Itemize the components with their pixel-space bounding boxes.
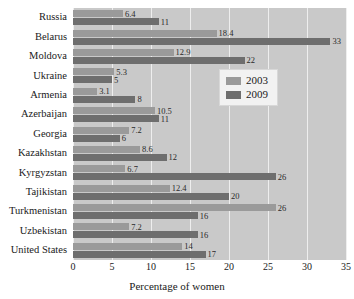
- x-tick-label: 0: [71, 262, 76, 272]
- x-tick-label: 25: [263, 262, 273, 272]
- bar-value-label: 16: [198, 231, 209, 240]
- bar-value-label: 11: [159, 17, 169, 26]
- bar-2009: [73, 154, 167, 161]
- x-tick-label: 35: [341, 262, 351, 272]
- bar-row: 7.2: [73, 127, 346, 134]
- bar-2003: [73, 68, 114, 75]
- bar-value-label: 26: [276, 203, 287, 212]
- gridline: [346, 8, 347, 260]
- category-axis: RussiaBelarusMoldovaUkraineArmeniaAzerba…: [0, 8, 70, 260]
- bar-row: 10.5: [73, 107, 346, 114]
- bar-row: 26: [73, 204, 346, 211]
- category-label: Uzbekistan: [0, 221, 70, 240]
- bar-value-label: 14: [182, 242, 193, 251]
- x-tick-label: 30: [302, 262, 312, 272]
- bar-value-label: 26: [276, 173, 287, 182]
- legend-item-2003: 2003: [226, 75, 268, 86]
- bar-2003: [73, 107, 155, 114]
- bar-value-label: 18.4: [217, 29, 234, 38]
- x-tick-label: 5: [110, 262, 115, 272]
- x-tick-label: 20: [224, 262, 234, 272]
- bar-2003: [73, 88, 97, 95]
- bar-value-label: 17: [206, 250, 217, 259]
- bar-row: 8: [73, 96, 346, 103]
- chart-legend: 20032009: [219, 69, 278, 106]
- bar-row: 22: [73, 57, 346, 64]
- category-label: Kazakhstan: [0, 144, 70, 163]
- bar-row: 5: [73, 76, 346, 83]
- bar-value-label: 7.2: [129, 126, 142, 135]
- bar-group: 12.922: [73, 47, 346, 66]
- bar-value-label: 22: [245, 56, 256, 65]
- bar-2009: [73, 193, 229, 200]
- x-tick-label: 15: [185, 262, 195, 272]
- bar-2009: [73, 115, 159, 122]
- bar-2009: [73, 212, 198, 219]
- bar-group: 18.433: [73, 27, 346, 46]
- bar-value-label: 8: [135, 95, 141, 104]
- bar-2003: [73, 185, 170, 192]
- bar-group: 12.420: [73, 183, 346, 202]
- legend-swatch-2003: [226, 77, 241, 85]
- bar-value-label: 12.4: [170, 184, 187, 193]
- bar-row: 11: [73, 18, 346, 25]
- x-tick-label: 10: [146, 262, 156, 272]
- plot-area: 6.41118.43312.9225.353.1810.5117.268.612…: [73, 8, 346, 260]
- bar-group: 6.411: [73, 8, 346, 27]
- legend-swatch-2009: [226, 91, 241, 99]
- bar-groups: 6.41118.43312.9225.353.1810.5117.268.612…: [73, 8, 346, 260]
- bar-value-label: 5: [112, 76, 118, 85]
- bar-row: 3.1: [73, 88, 346, 95]
- legend-label: 2003: [246, 75, 268, 86]
- bar-row: 7.2: [73, 223, 346, 230]
- bar-row: 8.6: [73, 146, 346, 153]
- category-label: Tajikistan: [0, 183, 70, 202]
- bar-value-label: 3.1: [97, 87, 110, 96]
- bar-2003: [73, 30, 217, 37]
- category-label: Russia: [0, 8, 70, 27]
- bar-2003: [73, 146, 140, 153]
- category-label: Armenia: [0, 86, 70, 105]
- bar-group: 1417: [73, 241, 346, 260]
- bar-group: 8.612: [73, 144, 346, 163]
- bar-2003: [73, 165, 125, 172]
- bar-row: 12.4: [73, 185, 346, 192]
- bar-row: 12: [73, 154, 346, 161]
- category-label: United States: [0, 241, 70, 260]
- bar-2009: [73, 38, 330, 45]
- bar-value-label: 16: [198, 211, 209, 220]
- bar-2003: [73, 49, 174, 56]
- bar-2009: [73, 173, 276, 180]
- bar-value-label: 33: [330, 37, 341, 46]
- category-label: Kyrgyzstan: [0, 163, 70, 182]
- bar-row: 6: [73, 135, 346, 142]
- bar-2003: [73, 127, 129, 134]
- category-label: Turkmenistan: [0, 202, 70, 221]
- bar-row: 17: [73, 251, 346, 258]
- bar-group: 6.726: [73, 163, 346, 182]
- legend-label: 2009: [246, 89, 268, 100]
- x-axis-label: Percentage of women: [0, 280, 354, 292]
- bar-value-label: 6.4: [123, 9, 136, 18]
- bar-chart: RussiaBelarusMoldovaUkraineArmeniaAzerba…: [0, 0, 354, 299]
- bar-2003: [73, 204, 276, 211]
- category-label: Ukraine: [0, 66, 70, 85]
- bar-value-label: 11: [159, 114, 169, 123]
- bar-value-label: 8.6: [140, 145, 153, 154]
- bar-row: 20: [73, 193, 346, 200]
- bar-value-label: 20: [229, 192, 240, 201]
- bar-group: 7.26: [73, 124, 346, 143]
- bar-row: 6.4: [73, 10, 346, 17]
- bar-group: 5.35: [73, 66, 346, 85]
- legend-item-2009: 2009: [226, 89, 268, 100]
- bar-value-label: 7.2: [129, 223, 142, 232]
- bar-value-label: 12: [167, 153, 178, 162]
- bar-row: 6.7: [73, 165, 346, 172]
- bar-2009: [73, 57, 245, 64]
- bar-group: 2616: [73, 202, 346, 221]
- bar-value-label: 6.7: [125, 165, 138, 174]
- category-label: Moldova: [0, 47, 70, 66]
- bar-row: 12.9: [73, 49, 346, 56]
- bar-value-label: 6: [120, 134, 126, 143]
- bar-2009: [73, 76, 112, 83]
